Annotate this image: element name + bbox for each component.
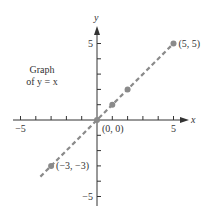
point-label: (0, 0) [102, 123, 124, 135]
data-point [109, 102, 115, 108]
y-axis-label: y [93, 12, 99, 23]
point-label: (−3, −3) [56, 160, 89, 172]
graph-annotation: Graph of y = x [26, 64, 57, 87]
y-axis-arrow [94, 26, 100, 35]
x-axis-arrow [180, 117, 189, 123]
series [40, 44, 173, 177]
point-label: (5, 5) [179, 38, 201, 50]
data-point [94, 117, 100, 123]
points: (5, 5)(0, 0)(−3, −3) [48, 38, 200, 172]
data-point [171, 41, 177, 47]
graph-of-y-equals-x: Graph of y = x −555−5 (5, 5)(0, 0)(−3, −… [0, 0, 211, 215]
x-tick-label: −5 [15, 123, 26, 134]
series-line-y-equals-x [40, 44, 173, 177]
y-tick-label: 5 [88, 38, 93, 49]
data-point [48, 163, 54, 169]
x-axis-label: x [190, 114, 196, 125]
x-tick-label: 5 [171, 123, 176, 134]
annotation-line-1: Graph [30, 64, 55, 75]
data-point [125, 86, 131, 92]
annotation-line-2: of y = x [26, 76, 57, 87]
y-tick-label: −5 [82, 191, 93, 202]
